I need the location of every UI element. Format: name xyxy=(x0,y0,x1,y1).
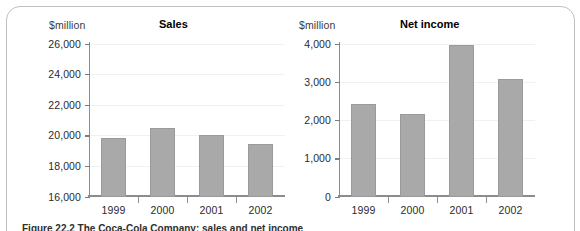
y-axis-tick-label: 22,000 xyxy=(48,99,81,111)
y-axis-tick xyxy=(85,44,90,45)
y-axis-tick xyxy=(335,44,340,45)
y-axis-tick-label: 24,000 xyxy=(48,68,81,80)
y-axis-tick xyxy=(335,197,340,198)
y-axis-line xyxy=(89,42,90,198)
y-axis-tick xyxy=(335,120,340,121)
y-axis-tick xyxy=(85,74,90,75)
bar-2001 xyxy=(199,135,224,197)
gridline xyxy=(89,44,285,45)
y-axis-tick-label: 1,000 xyxy=(304,152,331,164)
y-axis-tick xyxy=(85,105,90,106)
gridline xyxy=(339,44,535,45)
bar-1999 xyxy=(101,138,126,196)
plot-area-net-income: 01,0002,0003,0004,000 1999200020012002 xyxy=(339,44,535,197)
plot-area-sales: 16,00018,00020,00022,00024,00026,000 199… xyxy=(89,44,285,197)
x-axis-tick-label: 2001 xyxy=(450,204,474,216)
y-axis-unit-label: $million xyxy=(299,19,335,31)
x-axis-tick xyxy=(437,197,438,203)
bar-2002 xyxy=(248,144,273,196)
figure-caption: Figure 22.2 The Coca-Cola Company: sales… xyxy=(22,223,303,231)
chart-title-net-income: Net income xyxy=(400,18,459,30)
y-axis-tick xyxy=(335,158,340,159)
y-axis-tick xyxy=(85,135,90,136)
x-axis-tick xyxy=(187,197,188,203)
bar-2000 xyxy=(150,128,175,197)
bar-2002 xyxy=(498,79,523,196)
x-axis-tick xyxy=(486,197,487,203)
y-axis-tick xyxy=(85,166,90,167)
x-axis-tick-label: 2002 xyxy=(249,204,273,216)
bar-1999 xyxy=(351,104,376,197)
y-axis-tick-label: 26,000 xyxy=(48,38,81,50)
gridline xyxy=(89,74,285,75)
y-axis-tick-label: 18,000 xyxy=(48,160,81,172)
y-axis-tick-label: 4,000 xyxy=(304,38,331,50)
x-axis-tick-label: 1999 xyxy=(102,204,126,216)
x-axis-tick-label: 2002 xyxy=(499,204,523,216)
y-axis-tick-label: 3,000 xyxy=(304,76,331,88)
x-axis-tick-label: 2000 xyxy=(151,204,175,216)
y-axis-tick-label: 16,000 xyxy=(48,191,81,203)
x-axis-tick-label: 2001 xyxy=(200,204,224,216)
gridline xyxy=(89,135,285,136)
y-axis-unit-label: $million xyxy=(49,19,85,31)
bar-2001 xyxy=(449,45,474,196)
y-axis-tick-label: 2,000 xyxy=(304,114,331,126)
y-axis-tick-label: 0 xyxy=(325,191,331,203)
x-axis-tick-label: 1999 xyxy=(352,204,376,216)
y-axis-tick xyxy=(335,82,340,83)
gridline xyxy=(89,105,285,106)
x-axis-tick xyxy=(138,197,139,203)
x-axis-tick xyxy=(236,197,237,203)
y-axis-tick-label: 20,000 xyxy=(48,129,81,141)
y-axis-tick xyxy=(85,197,90,198)
x-axis-tick xyxy=(388,197,389,203)
x-axis-tick-label: 2000 xyxy=(401,204,425,216)
chart-title-sales: Sales xyxy=(159,18,188,30)
bar-2000 xyxy=(400,114,425,196)
